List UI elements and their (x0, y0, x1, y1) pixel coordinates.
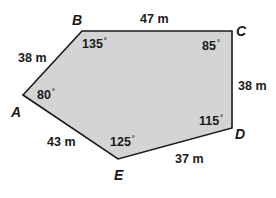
angle-label-a: 80° (37, 89, 55, 102)
angle-label-b: 135° (82, 38, 107, 51)
vertex-label-d: D (235, 127, 245, 141)
side-label-ea: 43 m (47, 136, 76, 149)
vertex-label-c: C (236, 24, 246, 38)
angle-label-e: 125° (110, 136, 135, 149)
side-label-cd: 38 m (238, 80, 267, 93)
side-label-de: 37 m (175, 153, 204, 166)
pentagon-diagram: B C A D E 47 m 38 m 38 m 43 m 37 m 135° … (0, 0, 276, 198)
side-label-bc: 47 m (140, 13, 169, 26)
side-label-ab: 38 m (18, 52, 47, 65)
angle-label-c: 85° (202, 40, 220, 53)
vertex-label-b: B (72, 13, 82, 27)
vertex-label-a: A (11, 105, 21, 119)
vertex-label-e: E (114, 168, 123, 182)
angle-label-d: 115° (199, 115, 223, 128)
